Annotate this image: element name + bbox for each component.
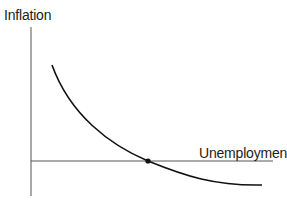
y-axis-label: Inflation [4,7,51,23]
phillips-curve-chart: Inflation Unemployment [0,0,287,206]
chart-canvas [0,0,287,206]
intersection-point [145,158,150,163]
phillips-curve [52,65,262,185]
x-axis-label: Unemployment [199,145,287,161]
